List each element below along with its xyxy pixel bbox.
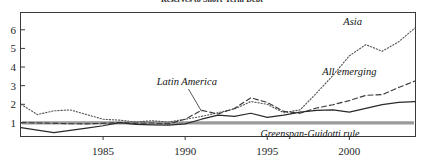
x-axis-ticks: 1985199019952000	[92, 136, 361, 157]
y-tick-label: 2	[11, 98, 17, 110]
x-tick-label: 1985	[92, 145, 115, 157]
x-tick-label: 1995	[256, 145, 279, 157]
series-label-latin-america: Latin America	[156, 76, 217, 87]
y-tick-label: 3	[11, 80, 17, 92]
x-tick-label: 1990	[174, 145, 197, 157]
chart-plot-area: 123456 1985199019952000 Greenspan-Guidot…	[0, 0, 424, 166]
y-tick-label: 6	[11, 24, 17, 36]
series-label-asia: Asia	[342, 16, 362, 27]
y-tick-label: 5	[11, 42, 17, 54]
x-tick-label: 2000	[338, 145, 361, 157]
y-tick-label: 1	[11, 117, 17, 129]
chart-figure: Reserves to Short-Term Debt 123456 19851…	[0, 0, 424, 166]
y-tick-label: 4	[11, 61, 17, 73]
series-label-all-emerging: All emerging	[321, 66, 376, 77]
greenspan-guidotti-rule-label: Greenspan-Guidotti rule	[261, 128, 360, 139]
